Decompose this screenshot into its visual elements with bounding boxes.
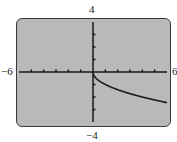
plot-area [0,0,177,142]
y-min-label: −4 [86,130,98,141]
axes [19,22,167,122]
x-max-label: 6 [172,66,177,77]
function-curve [93,74,167,103]
x-min-label: −6 [1,66,13,77]
y-max-label: 4 [89,4,95,15]
